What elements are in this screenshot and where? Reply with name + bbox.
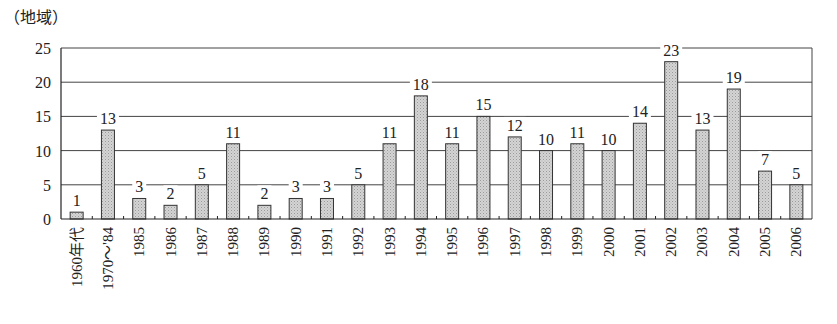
x-tick-label: 1995	[444, 227, 460, 257]
value-label: 5	[792, 165, 800, 182]
bar-1960年代	[70, 212, 83, 219]
x-tick-label: 1997	[507, 227, 523, 258]
value-label: 11	[570, 124, 585, 141]
x-tick-label: 2000	[601, 227, 617, 257]
y-tick-label: 25	[35, 40, 51, 57]
y-tick-label: 0	[43, 211, 51, 228]
value-label: 19	[726, 69, 742, 86]
value-label: 3	[292, 178, 300, 195]
value-label: 13	[694, 110, 710, 127]
x-tick-label: 1960年代	[69, 227, 85, 287]
x-tick-label: 2001	[632, 227, 648, 257]
bar-2001	[633, 123, 646, 219]
value-labels: 11332511233511181115121011101423131975	[70, 42, 804, 209]
x-tick-label: 1989	[256, 227, 272, 257]
x-tick-label: 2005	[757, 227, 773, 257]
y-tick-label: 20	[35, 74, 51, 91]
value-label: 13	[100, 110, 116, 127]
value-label: 2	[260, 185, 268, 202]
bar-1992	[352, 185, 365, 219]
x-tick-label: 2004	[726, 227, 742, 258]
value-label: 5	[354, 165, 362, 182]
bar-1996	[477, 116, 490, 219]
value-label: 7	[761, 151, 769, 168]
y-tick-labels: 0510152025	[35, 40, 51, 228]
value-label: 11	[382, 124, 397, 141]
bar-1995	[446, 144, 459, 219]
x-tick-label: 1970～'84	[100, 227, 116, 290]
bar-1989	[258, 205, 271, 219]
bar-2004	[727, 89, 740, 219]
bar-1987	[195, 185, 208, 219]
x-tick-label: 1986	[163, 227, 179, 258]
x-tick-label: 1990	[288, 227, 304, 257]
x-tick-label: 2006	[788, 227, 804, 258]
value-label: 3	[135, 178, 143, 195]
x-tick-labels: 1960年代1970～'8419851986198719881989199019…	[69, 227, 805, 290]
y-tick-label: 5	[43, 177, 51, 194]
bar-1993	[383, 144, 396, 219]
x-tick-label: 1994	[413, 227, 429, 258]
bar-1998	[540, 151, 553, 219]
value-label: 15	[475, 96, 491, 113]
x-tick-label: 1993	[382, 227, 398, 257]
value-label: 10	[601, 131, 617, 148]
value-label: 18	[413, 76, 429, 93]
bars	[70, 62, 803, 219]
y-tick-label: 10	[35, 143, 51, 160]
x-tick-label: 1988	[225, 227, 241, 257]
value-label: 11	[444, 124, 459, 141]
x-tick-label: 1991	[319, 227, 335, 257]
bar-1999	[571, 144, 584, 219]
x-tick-label: 1996	[475, 227, 491, 258]
bar-2002	[665, 62, 678, 219]
bar-2003	[696, 130, 709, 219]
bar-1988	[227, 144, 240, 219]
x-tick-label: 1987	[194, 227, 210, 258]
bar-2006	[790, 185, 803, 219]
value-label: 2	[167, 185, 175, 202]
bar-1990	[289, 198, 302, 219]
bar-1970～'84	[101, 130, 114, 219]
bar-1994	[414, 96, 427, 219]
value-label: 14	[632, 103, 648, 120]
value-label: 23	[663, 42, 679, 59]
value-label: 10	[538, 131, 554, 148]
value-label: 1	[73, 192, 81, 209]
value-label: 12	[507, 117, 523, 134]
x-tick-label: 2002	[663, 227, 679, 257]
bar-2005	[759, 171, 772, 219]
value-label: 5	[198, 165, 206, 182]
y-tick-label: 15	[35, 108, 51, 125]
value-label: 11	[225, 124, 240, 141]
x-tick-label: 1985	[131, 227, 147, 257]
bar-1997	[508, 137, 521, 219]
bar-1986	[164, 205, 177, 219]
x-tick-label: 1999	[569, 227, 585, 257]
bar-chart: 11332511233511181115121011101423131975 0…	[0, 0, 837, 324]
x-tick-label: 1998	[538, 227, 554, 257]
bar-1985	[133, 198, 146, 219]
bar-1991	[320, 198, 333, 219]
x-tick-label: 1992	[350, 227, 366, 257]
bar-2000	[602, 151, 615, 219]
x-tick-label: 2003	[694, 227, 710, 257]
value-label: 3	[323, 178, 331, 195]
